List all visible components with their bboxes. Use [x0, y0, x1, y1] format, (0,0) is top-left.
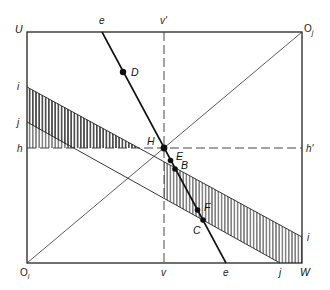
corner-Oj: Oj [304, 23, 314, 37]
label-j-bottom: j [277, 267, 282, 278]
label-j-left: j [15, 117, 20, 128]
label-i-right: i [307, 232, 310, 243]
point-F [195, 207, 201, 213]
label-C: C [193, 224, 201, 236]
point-B [172, 166, 178, 172]
label-e-top: e [99, 15, 105, 26]
label-i-left: i [17, 81, 20, 92]
label-D: D [131, 66, 139, 78]
label-B: B [181, 159, 188, 171]
point-E [168, 158, 174, 164]
point-D [120, 69, 126, 75]
i-line [27, 87, 302, 237]
corner-Oi: Oi [20, 267, 30, 280]
label-F: F [204, 201, 211, 213]
label-h-left: h [17, 143, 23, 154]
label-H: H [147, 135, 155, 147]
hatched-region-right [164, 162, 302, 263]
corner-W: W [300, 266, 311, 278]
label-v-bottom: v [161, 267, 167, 278]
point-C [200, 217, 206, 223]
label-e-bottom: e [223, 267, 229, 278]
corner-U: U [15, 23, 23, 35]
point-H [161, 145, 168, 152]
label-h-right: h' [306, 143, 315, 154]
edgeworth-box-diagram: D H E B F C U Oj Oi W e v' i j h h' i v … [0, 0, 330, 290]
label-v-top: v' [160, 15, 168, 26]
